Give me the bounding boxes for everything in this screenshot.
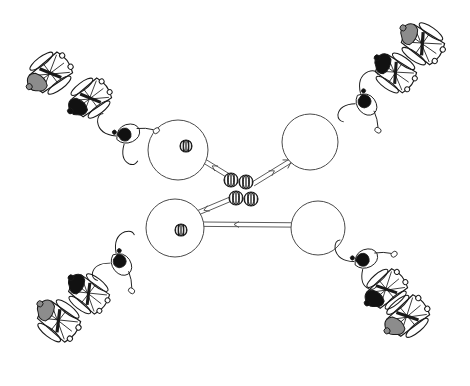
figure-br-inner-held-ball bbox=[390, 250, 398, 258]
figure-br-inner-head bbox=[349, 255, 355, 261]
figure-bl-inner-held-ball bbox=[127, 287, 135, 295]
sphere-bottom-right[interactable] bbox=[291, 201, 345, 255]
sphere-bottom-left-inner-ball bbox=[175, 223, 187, 237]
center-ball-4 bbox=[244, 191, 258, 207]
arrow-upper-right-rail-b bbox=[252, 158, 291, 182]
center-ball-3 bbox=[229, 190, 243, 206]
diagram-canvas: Four-armed X-shaped schematic: four larg… bbox=[0, 0, 470, 386]
sphere-top-right-outline bbox=[282, 114, 338, 170]
figure-tl-middle[interactable] bbox=[58, 71, 118, 129]
figure-tl-outer[interactable] bbox=[16, 44, 80, 105]
figure-br-inner-arm-lower bbox=[356, 269, 378, 293]
figure-tr-inner-arm-upper bbox=[354, 67, 379, 96]
arrow-upper-right-rail-a bbox=[254, 162, 293, 186]
figure-bl-inner-head bbox=[116, 248, 122, 254]
diagram-svg bbox=[0, 0, 470, 386]
center-ball-2 bbox=[239, 174, 253, 190]
center-ball-1 bbox=[224, 172, 238, 188]
chain-top-left bbox=[16, 44, 167, 168]
figure-tl-inner-arm-lower bbox=[117, 143, 139, 167]
sphere-top-left-inner-ball bbox=[180, 139, 192, 153]
arrow-upper-right bbox=[252, 158, 293, 186]
figure-tl-inner-head bbox=[111, 129, 117, 135]
chain-bottom-right bbox=[331, 216, 437, 349]
figure-tl-inner-arm-upper bbox=[93, 113, 118, 141]
sphere-top-right[interactable] bbox=[282, 114, 338, 170]
figure-tr-inner-held-ball bbox=[374, 126, 382, 134]
figure-tr-inner-head bbox=[361, 88, 367, 94]
chain-bottom-left bbox=[25, 227, 163, 350]
figure-tr-inner-arm-lower bbox=[335, 98, 356, 122]
figure-bl-inner-arm-upper bbox=[109, 227, 135, 255]
sphere-bottom-right-outline bbox=[291, 201, 345, 255]
figure-bl-inner-arm-lower bbox=[89, 257, 111, 281]
chain-top-right bbox=[334, 12, 452, 143]
